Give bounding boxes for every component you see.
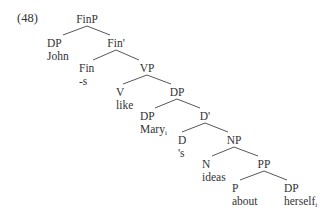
tree-edge-NP-to-N [212, 147, 234, 156]
tree-edge-DBar-to-D [182, 123, 205, 132]
node-category-label: NP [227, 134, 242, 147]
node-category-label: VP [140, 62, 155, 75]
node-category-label: D' [200, 110, 210, 123]
node-terminal-word: 's [178, 147, 186, 160]
node-category-label: N [202, 158, 226, 171]
tree-edge-FinP-to-FinBar [87, 26, 110, 35]
node-category-label: Fin [79, 62, 94, 75]
tree-edge-FinP-to-DP-John [63, 26, 87, 35]
tree-edge-PP-to-DP-herself [264, 171, 287, 180]
tree-node-pp: PP [258, 158, 271, 171]
tree-edge-FinBar-to-Fin [93, 50, 116, 60]
node-category-label: DP [140, 110, 167, 123]
tree-node-vp: VP [140, 62, 155, 75]
tree-edge-VP-to-V [123, 75, 147, 84]
tree-edge-DP-top-to-DBar [177, 99, 200, 108]
tree-node-dbar: D' [200, 110, 210, 123]
node-category-label: DP [47, 37, 69, 50]
tree-edge-PP-to-P [240, 171, 264, 180]
node-terminal-word: like [116, 99, 133, 112]
tree-node-fin: Fin-s [79, 62, 94, 88]
node-category-label: V [116, 86, 133, 99]
node-category-label: Fin' [107, 37, 124, 50]
node-category-label: FinP [76, 13, 98, 26]
tree-node-np: NP [227, 134, 242, 147]
syntax-tree-diagram: (48) FinPDPJohnFin'Fin-sVPVlikeDPDPMaryi… [0, 0, 336, 220]
tree-node-d: D's [178, 134, 186, 160]
tree-edge-NP-to-PP [234, 147, 258, 156]
tree-node-p: Pabout [232, 182, 258, 208]
tree-node-dp-herself: DPherselfi [284, 182, 317, 208]
node-terminal-word: ideas [202, 171, 226, 184]
node-terminal-word: Maryi [140, 123, 167, 136]
node-category-label: DP [284, 182, 317, 195]
coindex-subscript: i [165, 129, 167, 137]
node-terminal-word: -s [79, 75, 94, 88]
tree-node-dp-john: DPJohn [47, 37, 69, 63]
node-terminal-word: about [232, 195, 258, 208]
tree-node-n: Nideas [202, 158, 226, 184]
node-category-label: DP [170, 86, 185, 99]
tree-node-dp-top: DP [170, 86, 185, 99]
tree-node-dp-mary: DPMaryi [140, 110, 167, 136]
node-terminal-word: herselfi [284, 195, 317, 208]
node-category-label: D [178, 134, 186, 147]
node-terminal-word: John [47, 50, 69, 63]
node-category-label: PP [258, 158, 271, 171]
tree-node-finp: FinP [76, 13, 98, 26]
tree-edge-DBar-to-NP [205, 123, 228, 132]
node-category-label: P [232, 182, 258, 195]
tree-edge-DP-top-to-DP-Mary [155, 99, 177, 108]
tree-node-finbar: Fin' [107, 37, 124, 50]
tree-edge-VP-to-DP-top [147, 75, 171, 84]
coindex-subscript: i [315, 201, 317, 209]
tree-edge-FinBar-to-VP [116, 50, 139, 60]
tree-node-v: Vlike [116, 86, 133, 112]
